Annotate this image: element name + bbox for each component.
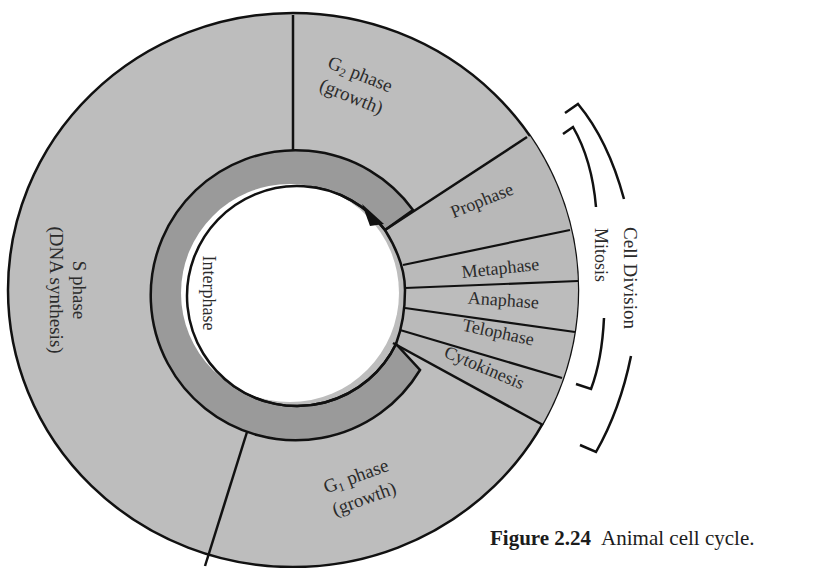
svg-text:S phase: S phase: [69, 261, 90, 320]
cell-cycle-diagram: G2 phase (growth) S phase (DNA synthesis…: [0, 0, 814, 568]
cell-division-bracket-top: [565, 104, 624, 199]
label-cell-division: Cell Division: [620, 227, 641, 329]
label-interphase: Interphase: [199, 256, 219, 331]
label-mitosis: Mitosis: [591, 228, 611, 282]
mitosis-bracket-bottom: [576, 318, 604, 389]
svg-text:(DNA synthesis): (DNA synthesis): [45, 226, 67, 353]
figure-number: Figure 2.24: [490, 526, 591, 550]
cell-division-bracket-bottom: [580, 356, 631, 452]
figure-caption: Figure 2.24Animal cell cycle.: [490, 526, 754, 551]
mitosis-bracket-top: [563, 127, 596, 207]
figure-caption-text: Animal cell cycle.: [601, 526, 754, 550]
